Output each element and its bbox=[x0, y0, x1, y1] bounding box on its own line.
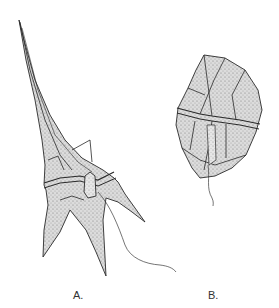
organism-b-drawing bbox=[176, 55, 262, 206]
panel-label-b: B. bbox=[208, 290, 218, 301]
organism-a-flagellum bbox=[98, 192, 176, 272]
panel-label-a: A. bbox=[73, 290, 83, 301]
figure-illustration bbox=[0, 0, 279, 308]
organism-a-body bbox=[19, 20, 145, 276]
organism-a-sulcus bbox=[84, 172, 96, 198]
organism-a-drawing bbox=[19, 20, 176, 276]
organism-b-sulcus bbox=[207, 125, 216, 165]
